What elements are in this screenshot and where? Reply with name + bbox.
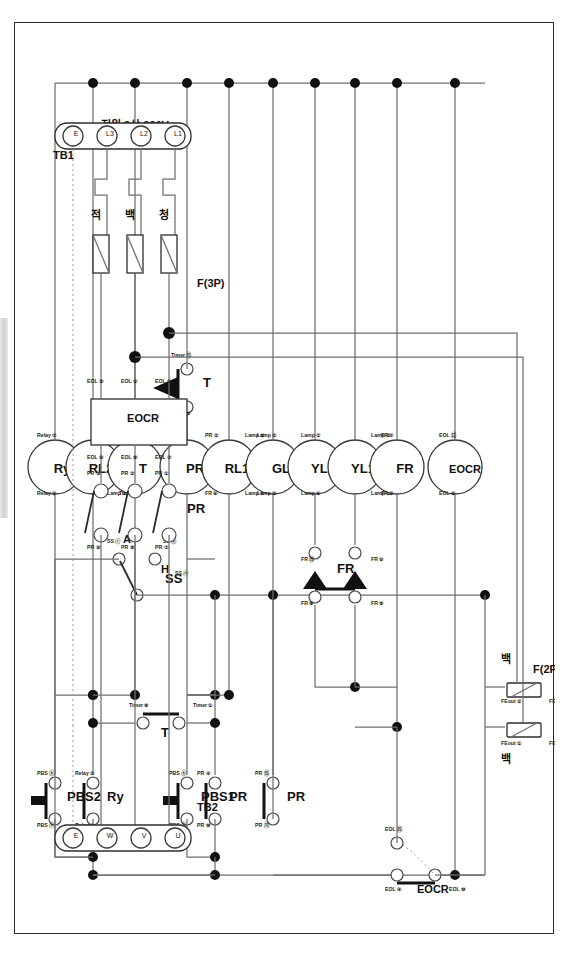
yl2-term-left: Lamp ① — [301, 490, 321, 496]
ss-pos-h: H — [161, 563, 169, 575]
eocr-trip-label: EOCR — [417, 883, 449, 895]
eocr-trip-contact[interactable]: EOCR EOL ④ EOL ⑮ EOL ⑩ — [273, 727, 466, 895]
gl-term-left: Lamp ① — [257, 490, 277, 496]
fuse-2p-label: F(2P) — [533, 663, 555, 675]
pr-main-term-8: PR ⑧ — [121, 544, 135, 550]
fr-flasher-label: FR — [337, 561, 355, 576]
pbs2-term-right: PBS ⓞ — [37, 821, 55, 829]
ss-term-a: SS ⓒ — [107, 537, 121, 545]
tb1-term-e: E — [74, 130, 79, 137]
flasher-fr-branch: FR FR ⑧ FR ⑧ FR ⑮ FR ⑥ YL2 Lamp ① Lamp ② — [288, 78, 391, 692]
ry-contact-term-left: Relay ① — [75, 770, 95, 776]
fr-flasher-term-lr: FR ⑥ — [371, 556, 384, 562]
contact-ry-holding[interactable]: Ry Relay ① Relay ③ — [75, 695, 124, 880]
eocr-term-9: EOL ⑨ — [87, 454, 104, 460]
schematic-svg: SS A H SS ⓒ SS ⓞ SS ⓑ — [15, 23, 555, 935]
pr-main-term-7: PR ⑦ — [155, 544, 169, 550]
ry-coil-term-left: Relay ② — [37, 490, 57, 496]
gl-label: GL — [272, 461, 290, 476]
pr-gl-contact-label: PR — [287, 789, 306, 804]
pr-contact-term-right: PR ⑩ — [197, 822, 211, 828]
t-instant-label: T — [203, 375, 211, 390]
ry-coil-term-right: Relay ⑦ — [37, 432, 57, 438]
tb2-term-u: U — [175, 832, 180, 839]
fr-flasher-term-ul: FR ⑧ — [301, 600, 314, 606]
fuse-2p-color-1: 백 — [501, 752, 511, 765]
tb2-term-e: E — [74, 832, 79, 839]
tb1-label: TB1 — [53, 149, 74, 161]
pr-main-term-3: PR ③ — [87, 470, 101, 476]
pr-contact-label: PR — [229, 789, 248, 804]
eocr-trip-term-top: EOL ④ — [385, 886, 402, 892]
eocr-term-3: EOL ③ — [87, 378, 104, 384]
fuse-2p-out-2: FEout ② — [501, 698, 522, 704]
control-power-tap — [129, 327, 523, 723]
pr-main-term-1: PR ① — [155, 470, 169, 476]
fuse-2p-in-2: FEin ② — [549, 698, 555, 704]
contact-pr-holding[interactable]: PR PR ④ PR ⑩ — [197, 695, 248, 862]
phase-color-blue: 청 — [159, 208, 169, 221]
tb2-term-w: W — [107, 832, 114, 839]
eocr-coil-term-left: EOL ⑥ — [439, 490, 456, 496]
pbs1-term-left: PBS ⓑ — [169, 769, 187, 777]
load-fr-coil: FR FR ② FR ⑦ — [355, 78, 424, 732]
tb1-term-l3: L3 — [106, 130, 114, 137]
t-contact-term-bottom: Timer ① — [193, 702, 213, 708]
pbs2-term-left: PBS ⓑ — [37, 769, 55, 777]
pr-gl-term-left: PR ⑮ — [255, 769, 270, 777]
load-eocr-coil: EOCR EOL ⑥ EOL ⑫ — [428, 78, 482, 880]
eocr-term-8: EOL ⑧ — [121, 454, 138, 460]
tb1-term-l1: L1 — [174, 130, 182, 137]
load-gl-lamp: GL Lamp ① Lamp ② — [246, 78, 300, 819]
tb2-term-v: V — [142, 832, 147, 839]
rung-pr-gl: PR PR ⑮ PR ⑪ — [255, 590, 306, 829]
fr-coil-term-left: FR ② — [381, 490, 394, 496]
t-coil-label: T — [139, 461, 147, 476]
load-rl2-lamp: RL2 Lamp ① Lamp ② — [66, 78, 127, 700]
fuse-3p-label: F(3P) — [197, 277, 225, 289]
pr-contact-term-left: PR ④ — [197, 770, 211, 776]
fuse-2p-out-1: FEout ① — [501, 740, 522, 746]
fr-coil-label: FR — [396, 461, 414, 476]
fuse-2p-color-2: 백 — [501, 652, 511, 665]
fr-coil-term-right: FR ⑦ — [381, 432, 394, 438]
selector-switch-ss[interactable]: SS A H SS ⓒ SS ⓞ SS ⓑ — [107, 533, 215, 601]
fr-flasher-term-ur: FR ⑮ — [301, 555, 315, 563]
yl2-term-right: Lamp ② — [301, 432, 321, 438]
eocr-term-7: EOL ⑦ — [155, 454, 172, 460]
pr-main-term-2: PR ② — [121, 470, 135, 476]
pr-main-label: PR — [187, 501, 206, 516]
eocr-block-label: EOCR — [127, 412, 159, 424]
eocr-term-1: EOL ① — [155, 378, 172, 384]
phase-color-white: 백 — [125, 208, 135, 221]
tb2-label: TB2 — [197, 801, 218, 813]
tb1-term-l2: L2 — [140, 130, 148, 137]
pr-gl-term-right: PR ⑪ — [255, 821, 270, 829]
load-t-coil: T Timer ② Timer ⑦ — [93, 78, 162, 700]
t-contact-label: T — [161, 725, 169, 740]
pr-coil-term-right: PR ② — [205, 432, 219, 438]
power-source-terminal-block-1: 전원 3상 220V E L3 L2 L1 TB1 — [53, 118, 191, 161]
scanner-edge-artifact — [0, 318, 8, 518]
eocr-coil-term-right: EOL ⑫ — [439, 431, 457, 439]
motor-terminal-block-2: E W V U TB2 — [55, 725, 218, 851]
phase-color-red: 적 — [91, 208, 101, 221]
fuse-2p-in-1: FEin ① — [549, 740, 555, 746]
gl-term-right: Lamp ② — [257, 432, 277, 438]
pr-main-term-9: PR ⑨ — [87, 544, 101, 550]
fr-flasher-term-ll: FR ⑧ — [371, 600, 384, 606]
load-pr-coil: PR FR ⑥ PR ② T Timer ⑧ Timer ⑮ — [153, 78, 219, 695]
load-rl1-lamp: RL1 Lamp ① Lamp ② — [187, 78, 265, 700]
schematic-page: SS A H SS ⓒ SS ⓞ SS ⓑ — [0, 0, 570, 957]
ry-contact-label: Ry — [107, 789, 124, 804]
t-contact-term-top: Timer ⑧ — [129, 702, 149, 708]
rotated-schematic-canvas: SS A H SS ⓒ SS ⓞ SS ⓑ — [15, 23, 555, 935]
eocr-term-2: EOL ② — [121, 378, 138, 384]
eocr-trip-term-no: EOL ⑮ — [385, 825, 403, 833]
eocr-trip-term-bottom: EOL ⑩ — [449, 886, 466, 892]
eocr-coil-label: EOCR — [449, 463, 481, 475]
control-feed-to-fuse — [455, 595, 505, 875]
fuse-2p: F(2P) FEout ① FEout ② FEin ① FEin ② 백 백 — [501, 652, 555, 765]
